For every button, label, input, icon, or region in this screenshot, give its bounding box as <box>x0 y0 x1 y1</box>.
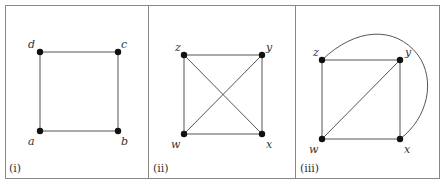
node-d <box>37 49 43 55</box>
label-d: d <box>28 38 35 51</box>
label-b: b <box>121 135 128 148</box>
panel-caption-iii: (iii) <box>300 162 319 175</box>
node-z <box>181 52 187 58</box>
panel-caption-i: (i) <box>9 162 21 175</box>
node-a <box>37 128 43 134</box>
label-x: x <box>404 143 411 156</box>
label-y: y <box>404 46 412 59</box>
outer-frame <box>6 6 440 179</box>
node-x <box>259 131 265 137</box>
node-x <box>397 136 403 142</box>
label-y: y <box>265 41 273 54</box>
panel-frames <box>6 6 440 179</box>
label-x: x <box>266 138 273 151</box>
label-z: z <box>174 41 181 54</box>
node-y <box>397 57 403 63</box>
panel-i: a b c d (i) <box>9 38 128 175</box>
label-a: a <box>28 135 35 148</box>
graph-figure: a b c d (i) w x y z (ii) w x y <box>0 0 448 191</box>
label-z: z <box>312 46 319 59</box>
label-c: c <box>121 38 127 51</box>
panel-caption-ii: (ii) <box>153 162 169 175</box>
node-b <box>115 128 121 134</box>
edge-w-y <box>322 60 400 139</box>
panel-iii: w x y z (iii) <box>300 34 428 175</box>
node-z <box>319 57 325 63</box>
label-w: w <box>171 138 181 151</box>
node-y <box>259 52 265 58</box>
node-w <box>319 136 325 142</box>
panel-ii: w x y z (ii) <box>153 41 273 175</box>
label-w: w <box>309 143 319 156</box>
node-w <box>181 131 187 137</box>
